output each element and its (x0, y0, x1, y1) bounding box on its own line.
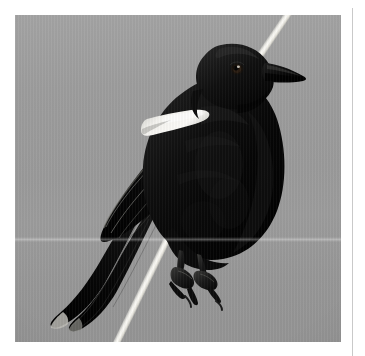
page-canvas (0, 0, 365, 356)
column-rule-divider (352, 8, 353, 356)
scan-artifact-band (15, 237, 341, 242)
photo-plate (15, 15, 341, 342)
